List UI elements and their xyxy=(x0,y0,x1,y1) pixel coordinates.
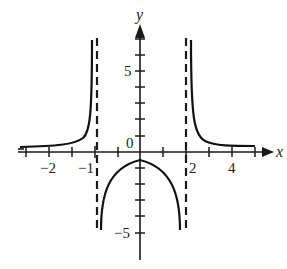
origin-label: 0 xyxy=(126,135,134,151)
curve-left-branch xyxy=(20,40,92,147)
function-graph: −2 −1 2 4 5 0 −5 x y xyxy=(0,0,287,269)
y-axis-label: y xyxy=(134,6,144,24)
x-tick-label: −2 xyxy=(40,160,56,176)
curve-right-branch xyxy=(191,40,255,146)
y-axis-arrow-icon xyxy=(135,24,145,38)
curve xyxy=(20,40,255,230)
x-axis-label: x xyxy=(275,143,283,160)
x-tick-label: 2 xyxy=(189,160,197,176)
y-tick-label: −5 xyxy=(114,225,130,241)
x-axis-arrow-icon xyxy=(262,147,274,157)
y-tick-label: 5 xyxy=(124,63,132,79)
x-tick-label: −1 xyxy=(78,160,94,176)
x-tick-label: 4 xyxy=(228,160,236,176)
